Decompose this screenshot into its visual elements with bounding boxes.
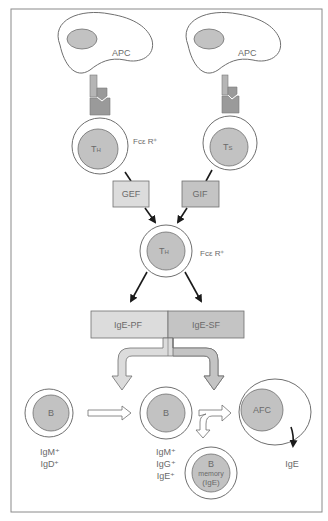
b-cell-naive-label: B [48,408,54,418]
ige-pf-box: IgE-PF [91,311,168,338]
afc-output-label: IgE [285,459,299,469]
th-mid-receptor-label: Fcε R⁺ [200,249,224,258]
apc-right-label: APC [238,48,257,58]
b-cell-activated-marker-3: IgE⁺ [157,471,176,481]
ige-sf-label: IgE-SF [192,320,221,330]
gef-box: GEF [113,181,149,207]
gif-box: GIF [182,181,219,207]
diagram-canvas: APC TH Fcε R⁺ APC TS GEF G [0,0,328,521]
b-cell-naive-marker-2: IgD⁺ [40,459,59,469]
ts-cell-top: TS [203,116,257,170]
apc-right-nucleus [194,29,224,49]
afc-label: AFC [253,405,272,415]
ige-pf-label: IgE-PF [114,320,143,330]
b-cell-activated-label: B [163,408,169,418]
apc-left-label: APC [112,48,131,58]
b-cell-naive-marker-1: IgM⁺ [40,447,60,457]
b-memory-sub1: memory [198,470,224,478]
th-top-receptor-label: Fcε R⁺ [133,137,157,146]
gef-label: GEF [122,189,141,199]
ige-sf-box: IgE-SF [168,311,244,338]
b-memory-sub2: (IgE) [202,478,220,487]
apc-left-nucleus [67,29,97,49]
b-memory-cell: B memory (IgE) [185,447,237,499]
b-cell-activated-marker-2: IgG⁺ [156,459,176,469]
gif-label: GIF [193,189,209,199]
b-memory-label: B [208,459,214,469]
b-cell-activated-marker-1: IgM⁺ [156,447,176,457]
